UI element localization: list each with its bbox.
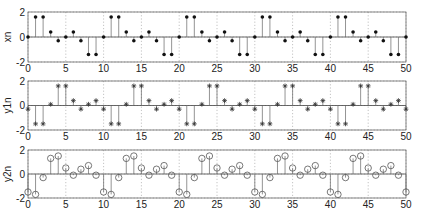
y-tick-label: -2 [16, 125, 25, 136]
data-point [41, 15, 45, 19]
data-point [170, 53, 174, 57]
data-point [253, 35, 257, 39]
data-point [336, 15, 340, 19]
x-tick-label: 0 [25, 131, 31, 142]
data-point [200, 30, 204, 34]
data-point [109, 121, 114, 126]
x-tick-label: 15 [136, 131, 148, 142]
data-point [215, 35, 219, 39]
data-point [192, 121, 197, 126]
x-tick-label: 25 [211, 131, 223, 142]
x-tick-label: 40 [325, 199, 337, 210]
x-tick-label: 20 [174, 63, 186, 74]
y-tick-label: -2 [16, 193, 25, 204]
data-point [117, 15, 121, 19]
x-tick-labels: 05101520253035404550 [25, 199, 412, 210]
data-point [321, 53, 325, 57]
x-tick-label: 5 [63, 63, 69, 74]
data-point [276, 30, 280, 34]
data-point [154, 107, 159, 112]
y-axis-label: y2n [2, 166, 13, 182]
data-point [298, 98, 303, 103]
x-tick-label: 20 [174, 131, 186, 142]
y-tick-label: 2 [19, 76, 25, 87]
data-point [185, 15, 189, 19]
data-point [343, 121, 348, 126]
data-point [336, 121, 341, 126]
x-tick-label: 35 [287, 131, 299, 142]
data-point [79, 107, 84, 112]
data-point [306, 39, 310, 43]
data-point [139, 84, 144, 89]
data-point [268, 15, 272, 19]
data-point [223, 30, 227, 34]
data-point [320, 98, 325, 103]
x-tick-label: 10 [98, 63, 110, 74]
data-point [329, 35, 333, 39]
data-point [131, 84, 136, 89]
y-tick-label: 0 [19, 32, 25, 43]
stem-plot-figure: 05101520253035404550-202xn05101520253035… [0, 0, 421, 220]
data-point [140, 35, 144, 39]
data-point [109, 15, 113, 19]
x-tick-label: 30 [249, 131, 261, 142]
y-tick-label: 2 [19, 145, 25, 156]
data-point [382, 39, 386, 43]
y-tick-label: -2 [16, 57, 25, 68]
data-point [283, 84, 288, 89]
data-point [132, 39, 136, 43]
data-point [268, 121, 273, 126]
data-point [397, 53, 401, 57]
data-point [71, 98, 76, 103]
data-point [283, 39, 287, 43]
data-point [215, 84, 220, 89]
x-tick-label: 35 [287, 199, 299, 210]
data-point [230, 39, 234, 43]
data-point [238, 53, 242, 57]
data-point [48, 102, 53, 107]
y-axis-label: xn [2, 32, 13, 43]
data-point [124, 102, 129, 107]
x-tick-label: 30 [249, 63, 261, 74]
x-tick-label: 10 [98, 199, 110, 210]
x-tick-label: 15 [136, 63, 148, 74]
x-tick-label: 45 [363, 63, 375, 74]
data-point [305, 107, 310, 112]
x-tick-label: 0 [25, 199, 31, 210]
data-point [116, 121, 121, 126]
data-point [291, 35, 295, 39]
data-point [199, 102, 204, 107]
data-point [373, 98, 378, 103]
data-point [177, 107, 182, 112]
data-point [49, 30, 53, 34]
x-tick-label: 45 [363, 131, 375, 142]
data-point [102, 35, 106, 39]
data-point [389, 53, 393, 57]
data-point [366, 35, 370, 39]
y-axis-label: y1n [2, 97, 13, 113]
data-point [56, 39, 60, 43]
x-tick-label: 30 [249, 199, 261, 210]
data-point [366, 84, 371, 89]
stem-series [26, 15, 408, 56]
data-point [245, 98, 250, 103]
data-point [358, 84, 363, 89]
data-point [208, 39, 212, 43]
x-tick-label: 15 [136, 199, 148, 210]
data-point [184, 121, 189, 126]
y-tick-label: 0 [19, 100, 25, 111]
data-point [207, 84, 212, 89]
x-tick-label: 40 [325, 131, 337, 142]
x-tick-label: 40 [325, 63, 337, 74]
data-point [351, 30, 355, 34]
data-point [147, 98, 152, 103]
data-point [351, 102, 356, 107]
data-point [404, 107, 409, 112]
x-tick-label: 5 [63, 131, 69, 142]
data-point [162, 102, 167, 107]
data-point [34, 15, 38, 19]
x-tick-labels: 05101520253035404550 [25, 131, 412, 142]
data-point [64, 35, 68, 39]
data-point [63, 84, 68, 89]
x-tick-label: 25 [211, 63, 223, 74]
